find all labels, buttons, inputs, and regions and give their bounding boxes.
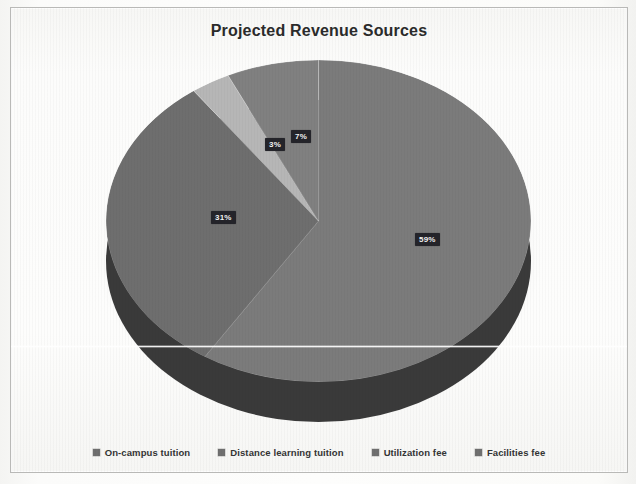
legend-swatch-icon: [475, 449, 482, 456]
legend-swatch-icon: [93, 449, 100, 456]
pie-data-label: 3%: [265, 138, 285, 151]
pie-data-label: 59%: [415, 233, 440, 246]
legend-swatch-icon: [218, 449, 225, 456]
chart-legend: On-campus tuitionDistance learning tuiti…: [11, 447, 627, 458]
legend-item[interactable]: On-campus tuition: [93, 447, 191, 458]
legend-item-label: Distance learning tuition: [230, 447, 343, 458]
pie-slices-svg: [106, 60, 531, 382]
legend-item[interactable]: Distance learning tuition: [218, 447, 343, 458]
legend-item[interactable]: Facilities fee: [475, 447, 545, 458]
chart-page: Projected Revenue Sources 59%31%3%7% On-…: [0, 0, 636, 484]
legend-item-label: On-campus tuition: [105, 447, 191, 458]
pie-data-label: 7%: [291, 130, 311, 143]
legend-item-label: Utilization fee: [384, 447, 447, 458]
pie-top-surface: [106, 60, 531, 382]
legend-item[interactable]: Utilization fee: [372, 447, 447, 458]
chart-frame: Projected Revenue Sources 59%31%3%7% On-…: [10, 7, 628, 473]
pie-chart: 59%31%3%7%: [106, 60, 531, 405]
legend-swatch-icon: [372, 449, 379, 456]
legend-item-label: Facilities fee: [487, 447, 545, 458]
pie-data-label: 31%: [211, 211, 236, 224]
chart-title: Projected Revenue Sources: [11, 22, 627, 40]
